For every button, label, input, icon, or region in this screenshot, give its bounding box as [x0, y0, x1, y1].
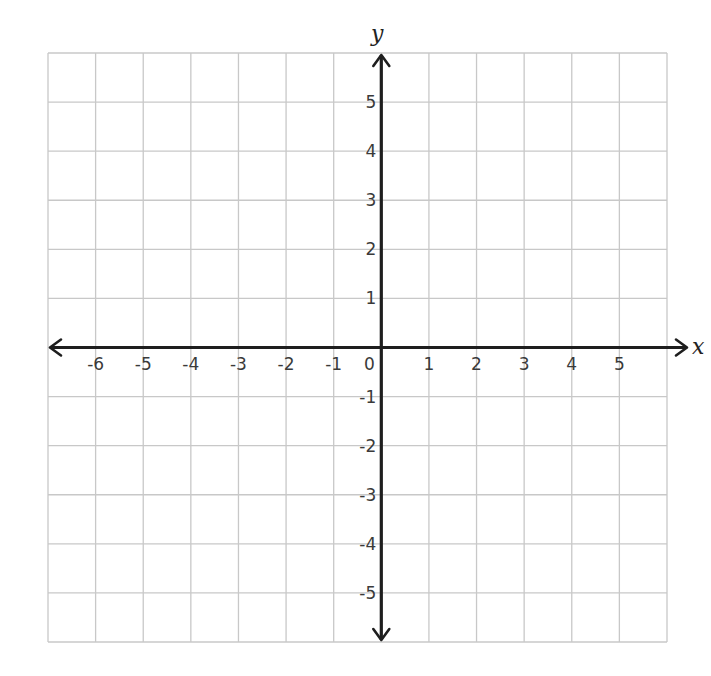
- y-tick-label: -2: [359, 436, 376, 456]
- x-tick-label: 5: [614, 354, 625, 374]
- x-tick-label: -4: [182, 354, 199, 374]
- x-tick-label: -3: [230, 354, 247, 374]
- coordinate-plane: -6-5-4-3-2-101234554321-1-2-3-4-5 x y: [0, 0, 711, 676]
- y-tick-label: 1: [365, 288, 376, 308]
- x-tick-label: 2: [471, 354, 482, 374]
- x-tick-label: -6: [87, 354, 104, 374]
- x-tick-label: -5: [135, 354, 152, 374]
- x-tick-label: 3: [519, 354, 530, 374]
- x-tick-label: 0: [364, 354, 375, 374]
- x-tick-label: 1: [424, 354, 435, 374]
- y-tick-label: 4: [365, 141, 376, 161]
- x-tick-label: -1: [325, 354, 342, 374]
- y-tick-label: -1: [359, 387, 376, 407]
- y-tick-label: 5: [365, 92, 376, 112]
- x-tick-label: 4: [566, 354, 577, 374]
- y-axis-label: y: [370, 21, 384, 46]
- y-tick-label: 2: [365, 239, 376, 259]
- y-tick-label: -3: [359, 485, 376, 505]
- y-tick-label: -5: [359, 583, 376, 603]
- x-tick-label: -2: [278, 354, 295, 374]
- x-axis-label: x: [692, 334, 705, 359]
- y-tick-label: 3: [365, 190, 376, 210]
- y-tick-label: -4: [359, 534, 376, 554]
